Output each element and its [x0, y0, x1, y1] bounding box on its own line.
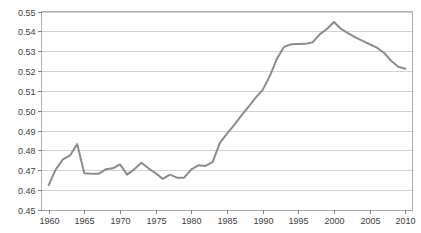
chart-canvas: 0.450.460.470.480.490.500.510.520.530.54… — [0, 0, 421, 233]
y-tick-label-0.46: 0.46 — [18, 186, 36, 196]
line-chart: 0.450.460.470.480.490.500.510.520.530.54… — [0, 0, 421, 233]
y-tick-label-0.47: 0.47 — [18, 166, 36, 176]
y-tick-label-0.52: 0.52 — [18, 67, 36, 77]
x-tick-label-2005: 2005 — [360, 216, 380, 226]
y-tick-label-0.49: 0.49 — [18, 127, 36, 137]
x-tick-label-1995: 1995 — [288, 216, 308, 226]
x-tick-label-2010: 2010 — [395, 216, 415, 226]
x-tick-label-2000: 2000 — [324, 216, 344, 226]
x-tick-label-1965: 1965 — [74, 216, 94, 226]
y-tick-label-0.48: 0.48 — [18, 146, 36, 156]
y-tick-label-0.53: 0.53 — [18, 47, 36, 57]
y-tick-label-0.54: 0.54 — [18, 27, 36, 37]
x-tick-label-1970: 1970 — [110, 216, 130, 226]
x-tick-label-1975: 1975 — [146, 216, 166, 226]
x-tick-label-1990: 1990 — [253, 216, 273, 226]
x-tick-label-1960: 1960 — [39, 216, 59, 226]
x-tick-label-1980: 1980 — [181, 216, 201, 226]
y-tick-label-0.51: 0.51 — [18, 87, 36, 97]
chart-background — [0, 0, 421, 233]
x-tick-label-1985: 1985 — [217, 216, 237, 226]
y-tick-label-0.45: 0.45 — [18, 206, 36, 216]
y-tick-label-0.55: 0.55 — [18, 8, 36, 18]
y-tick-label-0.50: 0.50 — [18, 107, 36, 117]
